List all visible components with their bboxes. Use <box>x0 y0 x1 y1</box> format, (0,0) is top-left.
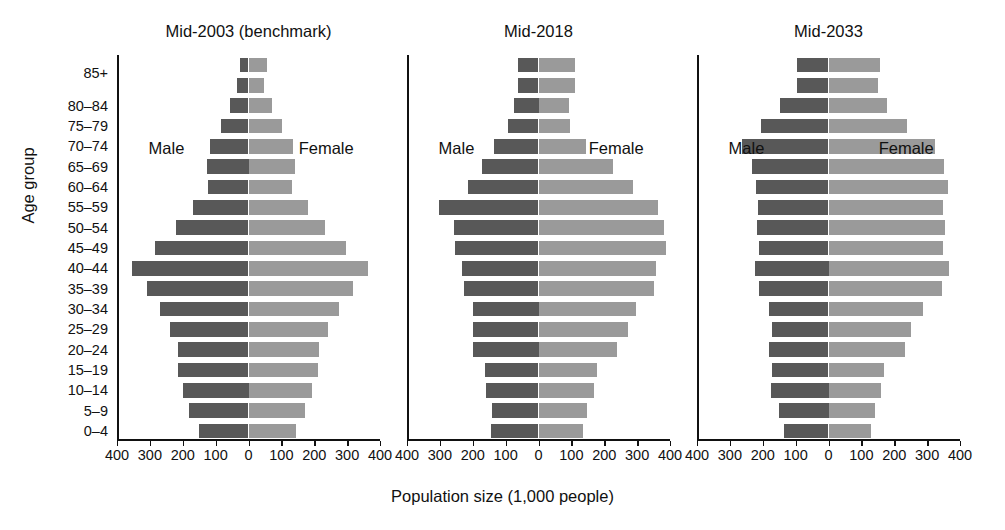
x-tick-label: 400 <box>105 447 129 463</box>
male-bar <box>772 363 829 378</box>
female-bar <box>829 302 924 317</box>
plot-area: MaleFemale <box>697 55 960 441</box>
female-bar <box>249 363 319 378</box>
pyramid-row <box>697 383 960 398</box>
pyramid-row <box>117 241 380 256</box>
x-tick-mark <box>604 441 605 446</box>
male-bar <box>780 98 829 113</box>
male-bar <box>468 180 539 195</box>
male-bar <box>769 342 829 357</box>
x-tick-label: 300 <box>335 447 359 463</box>
male-bar <box>491 424 539 439</box>
y-tick-label: 60–64 <box>68 180 108 194</box>
x-tick-label: 200 <box>882 447 906 463</box>
panel-mid-2018: Mid-2018MaleFemale4003002001000100200300… <box>407 55 670 455</box>
male-series-label: Male <box>439 139 475 158</box>
female-bar <box>539 322 628 337</box>
pyramid-row <box>407 180 670 195</box>
y-tick-label: 45–49 <box>68 241 108 255</box>
pyramid-row <box>697 281 960 296</box>
female-bar <box>829 322 912 337</box>
y-tick-label: 25–29 <box>68 322 108 336</box>
pyramid-row <box>697 58 960 73</box>
male-bar <box>508 119 538 134</box>
female-bar <box>829 342 905 357</box>
pyramid-row <box>697 363 960 378</box>
male-bar <box>514 98 539 113</box>
female-bar <box>539 342 618 357</box>
female-bar <box>249 98 273 113</box>
male-bar <box>761 119 828 134</box>
pyramid-row <box>697 403 960 418</box>
female-bar <box>829 200 943 215</box>
female-bar <box>249 220 325 235</box>
female-bar <box>539 200 658 215</box>
pyramid-row <box>117 383 380 398</box>
x-tick-mark <box>440 441 441 446</box>
male-bar <box>207 159 248 174</box>
male-bar <box>178 342 248 357</box>
male-bar <box>454 220 539 235</box>
x-tick-labels: 4003002001000100200300400 <box>697 447 960 467</box>
y-tick-label: 30–34 <box>68 302 108 316</box>
y-axis-title: Age group <box>19 86 38 286</box>
female-bar <box>249 424 297 439</box>
y-tick-label: 15–19 <box>68 363 108 377</box>
pyramid-row <box>697 119 960 134</box>
x-tick-label: 200 <box>592 447 616 463</box>
pyramid-row <box>407 119 670 134</box>
x-tick-mark <box>117 441 118 446</box>
female-bar <box>249 200 308 215</box>
male-bar <box>473 322 538 337</box>
plot-area: MaleFemale <box>117 55 380 441</box>
female-bar <box>539 180 634 195</box>
pyramid-row <box>697 220 960 235</box>
x-tick-label: 300 <box>625 447 649 463</box>
male-bar <box>210 139 249 154</box>
female-bar <box>829 58 881 73</box>
male-bar <box>462 261 538 276</box>
male-bar <box>237 78 249 93</box>
pyramid-row <box>697 78 960 93</box>
female-bar <box>249 322 329 337</box>
female-bar <box>829 119 907 134</box>
female-bar <box>249 58 268 73</box>
panel-title: Mid-2003 (benchmark) <box>117 22 380 41</box>
male-bar <box>183 383 249 398</box>
pyramid-row <box>117 403 380 418</box>
male-bar <box>759 281 828 296</box>
male-bar <box>132 261 248 276</box>
female-bar <box>539 424 583 439</box>
x-tick-mark <box>150 441 151 446</box>
female-bar <box>829 424 872 439</box>
male-bar <box>758 200 829 215</box>
female-bar <box>829 261 950 276</box>
x-tick-labels: 4003002001000100200300400 <box>117 447 380 467</box>
y-tick-label: 85+ <box>83 66 108 80</box>
x-tick-mark <box>216 441 217 446</box>
x-tick-label: 400 <box>368 447 392 463</box>
male-bar <box>757 220 829 235</box>
pyramid-row <box>407 342 670 357</box>
pyramid-row <box>407 98 670 113</box>
x-tick-label: 300 <box>915 447 939 463</box>
female-bar <box>539 98 569 113</box>
pyramid-row <box>697 159 960 174</box>
x-tick-mark <box>380 441 381 446</box>
x-tick-mark <box>281 441 282 446</box>
panel-mid-2003: Mid-2003 (benchmark)MaleFemale4003002001… <box>117 55 380 455</box>
female-bar <box>539 220 665 235</box>
pyramid-row <box>407 302 670 317</box>
male-bar <box>160 302 248 317</box>
female-bar <box>829 281 942 296</box>
pyramid-row <box>117 78 380 93</box>
female-bar <box>539 302 637 317</box>
x-tick-label: 400 <box>395 447 419 463</box>
x-tick-label: 100 <box>494 447 518 463</box>
female-bar <box>249 119 283 134</box>
y-tick-label: 35–39 <box>68 282 108 296</box>
x-tick-mark <box>506 441 507 446</box>
x-tick-label: 400 <box>658 447 682 463</box>
x-tick-mark <box>960 441 961 446</box>
x-tick-mark <box>763 441 764 446</box>
